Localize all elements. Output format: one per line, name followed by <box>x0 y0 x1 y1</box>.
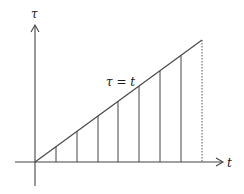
tau-axis-label: τ <box>31 7 38 21</box>
t-axis <box>15 158 223 166</box>
t-axis-label: t <box>227 156 232 170</box>
tau-t-diagram: τ t τ = t <box>0 0 244 194</box>
diagonal-line-label: τ = t <box>106 75 135 89</box>
vertical-slices <box>56 55 181 162</box>
diagram-canvas: τ t τ = t <box>0 0 244 194</box>
